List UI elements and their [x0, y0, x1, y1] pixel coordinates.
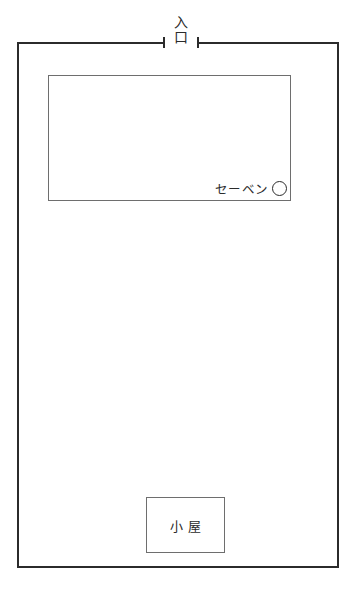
circle-icon [272, 181, 287, 196]
entrance-label: 入 口 [163, 15, 199, 45]
boundary-wall-top-left [17, 42, 164, 44]
boundary-wall-top-right [198, 42, 339, 44]
boundary-wall-left [17, 42, 19, 568]
building-outline: セーベン [48, 75, 291, 201]
hut-outline: 小 屋 [146, 497, 225, 553]
site-plan-diagram: 入 口 セーベン 小 屋 [0, 0, 355, 595]
store-label: セーベン [215, 179, 268, 198]
store-marker: セーベン [215, 179, 287, 198]
hut-label: 小 屋 [170, 516, 200, 535]
entrance-label-char-bottom: 口 [163, 30, 199, 45]
boundary-wall-right [337, 42, 339, 568]
boundary-wall-bottom [17, 566, 339, 568]
entrance-label-char-top: 入 [163, 15, 199, 30]
